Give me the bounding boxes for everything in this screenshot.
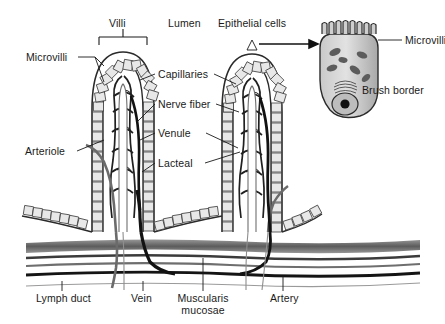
lacteal-right: [248, 86, 256, 232]
label-microvilli-left: Microvilli: [26, 51, 67, 63]
label-nerve-fiber: Nerve fiber: [158, 98, 210, 110]
muscularis-mucosae-layers: [26, 239, 420, 286]
label-venule: Venule: [158, 127, 191, 139]
magnify-arrow-icon: [259, 40, 318, 48]
label-vein: Vein: [131, 292, 152, 304]
epithelial-cell-inset: [320, 21, 378, 118]
label-muscularis-mucosae: Muscularis mucosae: [164, 292, 242, 316]
nucleolus: [340, 99, 349, 108]
villus-right: [222, 54, 288, 232]
villi-bracket-icon: [99, 29, 147, 45]
label-epithelial-cells: Epithelial cells: [218, 17, 286, 29]
brush-border-microvilli: [322, 21, 376, 35]
label-arteriole: Arteriole: [25, 145, 65, 157]
label-artery: Artery: [270, 292, 299, 304]
intestinal-villi-diagram: Villi Lumen Epithelial cells Microvilli …: [0, 0, 445, 324]
label-microvilli-inset: Microvilli: [405, 34, 445, 46]
label-lymph-duct: Lymph duct: [36, 292, 91, 304]
villus-left: [86, 52, 159, 232]
label-villi: Villi: [109, 17, 126, 29]
label-lacteal: Lacteal: [158, 157, 193, 169]
label-brush-border: Brush border: [362, 84, 424, 96]
vein-vessel: [141, 232, 175, 274]
label-lumen: Lumen: [168, 17, 201, 29]
diagram-artwork: [0, 0, 445, 324]
label-capillaries: Capillaries: [158, 68, 208, 80]
lacteal-left: [119, 84, 127, 232]
